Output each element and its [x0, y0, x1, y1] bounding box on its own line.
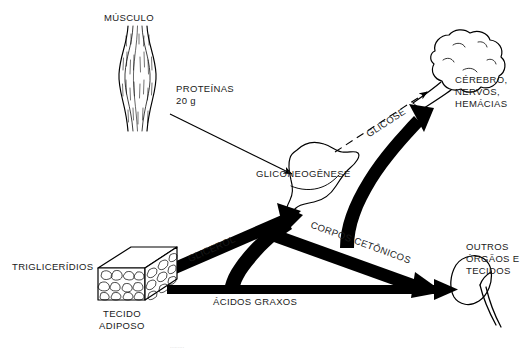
triglycerides-label: TRIGLICERÍDIOS — [12, 261, 93, 273]
gluconeogenesis-label: GLICONEOGÊNESE — [256, 168, 351, 180]
adipose-tissue-block-icon — [98, 247, 177, 300]
brain-label-line1: CÉREBRO, — [455, 74, 507, 86]
muscle-label: MÚSCULO — [104, 12, 154, 24]
proteins-label: PROTEÍNAS — [176, 83, 234, 95]
arrow-proteins-to-liver — [170, 114, 292, 174]
adipose-tissue-label-line2: ADIPOSO — [99, 320, 145, 332]
arrow-fatty-acids-to-liver — [224, 205, 303, 294]
figure-caption-partial: ......... — [170, 341, 184, 353]
other-tissues-label-line2: ÓRGÃOS E — [466, 253, 519, 265]
muscle-icon — [119, 26, 156, 131]
proteins-amount-label: 20 g — [176, 95, 196, 107]
other-tissues-label-line3: TECIDOS — [466, 265, 511, 277]
fatty-acids-arrow-label: ÁCIDOS GRAXOS — [213, 296, 297, 308]
brain-label-line3: HEMÁCIAS — [455, 98, 507, 110]
adipose-tissue-label-line1: TECIDO — [103, 308, 141, 320]
other-tissues-label-line1: OUTROS — [466, 241, 509, 253]
ketone-branch-joint — [268, 229, 284, 240]
brain-label-line2: NERVOS, — [455, 86, 500, 98]
metabolic-pathway-diagram: MÚSCULO PROTEÍNAS 20 g GLICONEOGÊNESE TR… — [0, 0, 532, 353]
